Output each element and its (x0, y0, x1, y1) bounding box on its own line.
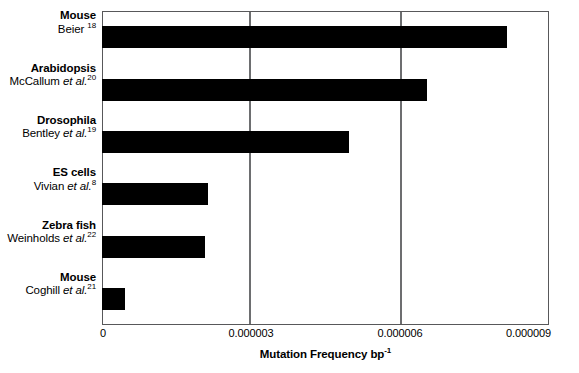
bar (102, 288, 125, 310)
category-organism: Arabidopsis (10, 62, 96, 76)
bar (102, 131, 349, 153)
category-reference: Vivian et al.8 (34, 180, 96, 194)
category-reference: Coghill et al.21 (25, 284, 96, 298)
category-label: MouseBeier 18 (58, 9, 96, 36)
et-al: et al. (63, 75, 87, 87)
category-reference: McCallum et al.20 (10, 75, 96, 89)
et-al: et al. (63, 127, 87, 139)
x-tick-label: 0.000003 (229, 327, 274, 339)
bar (102, 26, 507, 48)
et-al: et al. (63, 232, 87, 244)
x-axis-tick-labels: 00.0000030.0000060.000009 (0, 327, 579, 347)
category-labels: MouseBeier 18ArabidopsisMcCallum et al.2… (0, 11, 102, 325)
reference-superscript: 22 (87, 230, 96, 239)
category-organism: Drosophila (22, 114, 96, 128)
category-label: MouseCoghill et al.21 (25, 271, 96, 298)
category-organism: Zebra fish (7, 219, 96, 233)
x-tick-label: 0 (100, 327, 106, 339)
category-label: DrosophilaBentley et al.19 (22, 114, 96, 141)
mutation-frequency-bar-chart: MouseBeier 18ArabidopsisMcCallum et al.2… (0, 0, 579, 373)
reference-superscript: 8 (92, 178, 96, 187)
category-organism: ES cells (34, 166, 96, 180)
et-al: et al. (67, 180, 91, 192)
x-tick-label: 0.000009 (506, 327, 551, 339)
axis-title-superscript: -1 (384, 346, 391, 355)
category-label: ES cellsVivian et al.8 (34, 166, 96, 193)
reference-superscript: 18 (87, 21, 96, 30)
category-label: ArabidopsisMcCallum et al.20 (10, 62, 96, 89)
reference-superscript: 20 (87, 73, 96, 82)
category-label: Zebra fishWeinholds et al.22 (7, 219, 96, 246)
x-axis-title: Mutation Frequency bp-1 (102, 348, 549, 360)
reference-superscript: 21 (87, 283, 96, 292)
reference-superscript: 19 (87, 126, 96, 135)
bar (102, 183, 208, 205)
bar (102, 79, 427, 101)
category-reference: Weinholds et al.22 (7, 232, 96, 246)
category-reference: Bentley et al.19 (22, 127, 96, 141)
category-reference: Beier 18 (58, 23, 96, 37)
bars-layer (102, 11, 549, 325)
x-tick-label: 0.000006 (378, 327, 423, 339)
bar (102, 236, 205, 258)
category-organism: Mouse (25, 271, 96, 285)
et-al: et al. (63, 284, 87, 296)
